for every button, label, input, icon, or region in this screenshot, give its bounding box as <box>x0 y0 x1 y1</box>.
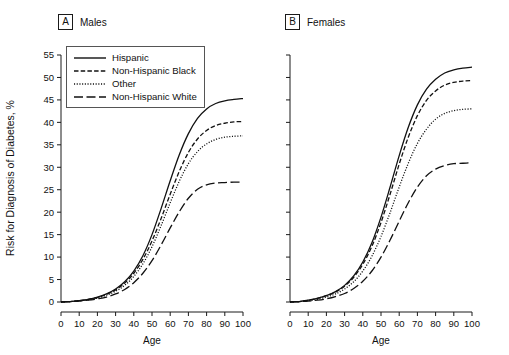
x-tick-label: 70 <box>183 318 194 329</box>
x-tick-label: 30 <box>110 318 121 329</box>
x-tick-label: 20 <box>92 318 103 329</box>
x-axis-title: Age <box>143 335 161 346</box>
legend-item-other: Other <box>72 77 197 90</box>
legend-label-other: Other <box>112 78 136 89</box>
panel-females: B Females 0102030405060708090100Age <box>254 0 508 355</box>
curve-hispanic <box>61 99 243 302</box>
curve-non-hispanic-white <box>290 163 472 302</box>
x-tick-label: 30 <box>339 318 350 329</box>
x-tick-label: 100 <box>464 318 480 329</box>
x-tick-label: 60 <box>165 318 176 329</box>
x-tick-label: 20 <box>321 318 332 329</box>
x-axis-title: Age <box>372 335 390 346</box>
x-tick-label: 100 <box>235 318 251 329</box>
y-tick-label: 10 <box>43 251 54 262</box>
figure-container: Risk for Diagnosis of Diabetes, % A Male… <box>0 0 509 355</box>
y-tick-label: 0 <box>49 296 54 307</box>
legend-label-non-hispanic-white: Non-Hispanic White <box>112 91 197 102</box>
x-tick-label: 50 <box>147 318 158 329</box>
panel-males: A Males 05101520253035404550550102030405… <box>0 0 254 355</box>
curve-other <box>290 109 472 302</box>
legend-swatch-solid <box>72 53 108 63</box>
x-tick-label: 0 <box>58 318 63 329</box>
legend: Hispanic Non-Hispanic Black Other Non-Hi… <box>66 46 205 108</box>
y-tick-label: 25 <box>43 184 54 195</box>
x-tick-label: 90 <box>449 318 460 329</box>
x-tick-label: 70 <box>412 318 423 329</box>
y-tick-label: 45 <box>43 94 54 105</box>
curve-other <box>61 136 243 302</box>
x-tick-label: 80 <box>201 318 212 329</box>
y-tick-label: 30 <box>43 162 54 173</box>
legend-label-non-hispanic-black: Non-Hispanic Black <box>112 65 196 76</box>
legend-item-non-hispanic-black: Non-Hispanic Black <box>72 64 197 77</box>
y-tick-label: 15 <box>43 229 54 240</box>
y-tick-label: 40 <box>43 117 54 128</box>
x-tick-label: 50 <box>376 318 387 329</box>
plot-area-females: 0102030405060708090100Age <box>254 0 508 355</box>
y-tick-label: 5 <box>49 274 54 285</box>
curve-hispanic <box>290 67 472 302</box>
legend-swatch-dotted <box>72 79 108 89</box>
legend-swatch-longdash <box>72 92 108 102</box>
x-tick-label: 80 <box>430 318 441 329</box>
x-tick-label: 90 <box>220 318 231 329</box>
x-tick-label: 10 <box>74 318 85 329</box>
y-tick-label: 50 <box>43 72 54 83</box>
x-tick-label: 40 <box>358 318 369 329</box>
legend-swatch-dashed <box>72 66 108 76</box>
legend-item-hispanic: Hispanic <box>72 51 197 64</box>
curve-non-hispanic-black <box>61 121 243 302</box>
legend-item-non-hispanic-white: Non-Hispanic White <box>72 90 197 103</box>
x-tick-label: 10 <box>303 318 314 329</box>
y-tick-label: 35 <box>43 139 54 150</box>
y-tick-label: 55 <box>43 49 54 60</box>
x-tick-label: 40 <box>129 318 140 329</box>
x-tick-label: 0 <box>287 318 292 329</box>
y-tick-label: 20 <box>43 207 54 218</box>
x-tick-label: 60 <box>394 318 405 329</box>
legend-label-hispanic: Hispanic <box>112 52 149 63</box>
